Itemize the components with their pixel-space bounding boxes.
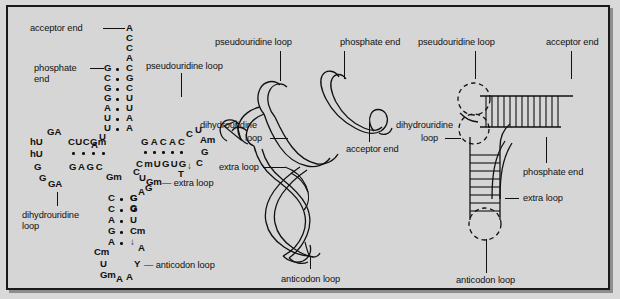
schematic-drawing	[8, 7, 612, 292]
figure-canvas: acceptor end phosphate end A C C A C G C…	[0, 0, 620, 299]
figure-frame: acceptor end phosphate end A C C A C G C…	[6, 5, 610, 290]
